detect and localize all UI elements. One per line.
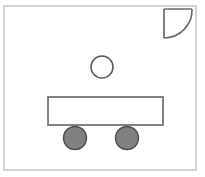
drawing-surface[interactable] <box>0 0 205 177</box>
circle-outline-shape[interactable] <box>91 56 113 78</box>
body-rectangle-shape[interactable] <box>48 97 163 125</box>
right-wheel-shape[interactable] <box>116 127 139 150</box>
shape-drawing-canvas[interactable] <box>0 0 205 177</box>
canvas-background <box>0 0 205 177</box>
left-wheel-shape[interactable] <box>64 127 87 150</box>
